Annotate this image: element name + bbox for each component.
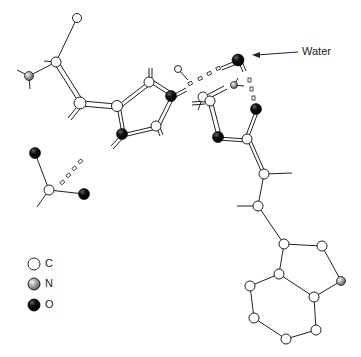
- legend-label-c: C: [45, 257, 53, 269]
- legend-oxygen-icon: [28, 299, 40, 311]
- legend-label-n: N: [45, 277, 53, 289]
- double-bonds: [54, 59, 265, 173]
- water-label: Water: [302, 45, 331, 57]
- nitrogen-atoms: [25, 72, 346, 286]
- water-oxygen: [232, 54, 244, 66]
- legend-carbon-icon: [28, 258, 40, 270]
- arrow-head-icon: [252, 52, 260, 58]
- legend-symbols: [28, 258, 40, 311]
- carbon-atoms: [44, 14, 327, 345]
- legend-label-o: O: [45, 298, 54, 310]
- water-arrow: [252, 52, 298, 58]
- oxygen-atoms: [30, 54, 262, 200]
- legend-nitrogen-icon: [28, 278, 40, 290]
